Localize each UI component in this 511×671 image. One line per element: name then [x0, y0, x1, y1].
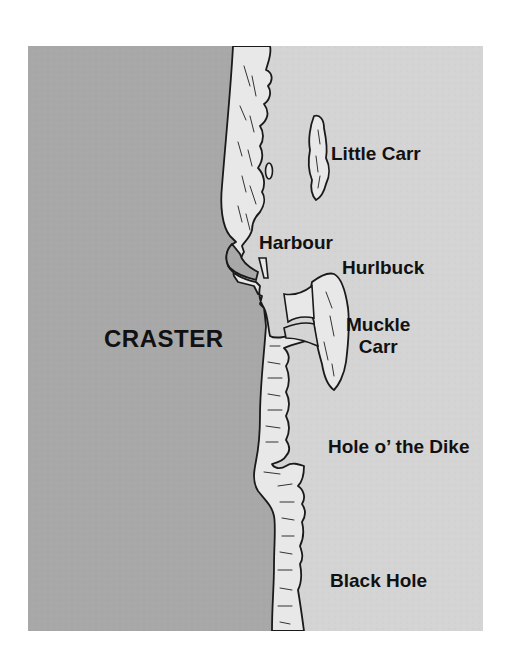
label-craster: CRASTER	[104, 327, 224, 351]
label-black-hole: Black Hole	[330, 571, 427, 590]
label-harbour: Harbour	[259, 233, 333, 252]
label-little-carr: Little Carr	[331, 144, 421, 163]
label-hole-o-the-dike: Hole o’ the Dike	[328, 437, 469, 456]
map-frame: CRASTER Little Carr Harbour Hurlbuck Muc…	[28, 46, 483, 631]
label-muckle-carr-line1: Muckle	[346, 314, 410, 336]
small-islet	[266, 163, 273, 179]
coastline-map	[28, 46, 483, 631]
label-muckle-carr: Muckle Carr	[346, 314, 410, 358]
label-muckle-carr-line2: Carr	[346, 336, 410, 358]
label-hurlbuck: Hurlbuck	[342, 258, 424, 277]
